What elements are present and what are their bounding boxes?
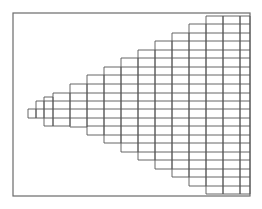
grid-cells <box>28 16 250 194</box>
diagram-canvas <box>0 0 262 209</box>
staircase-grid-diagram <box>0 0 262 209</box>
